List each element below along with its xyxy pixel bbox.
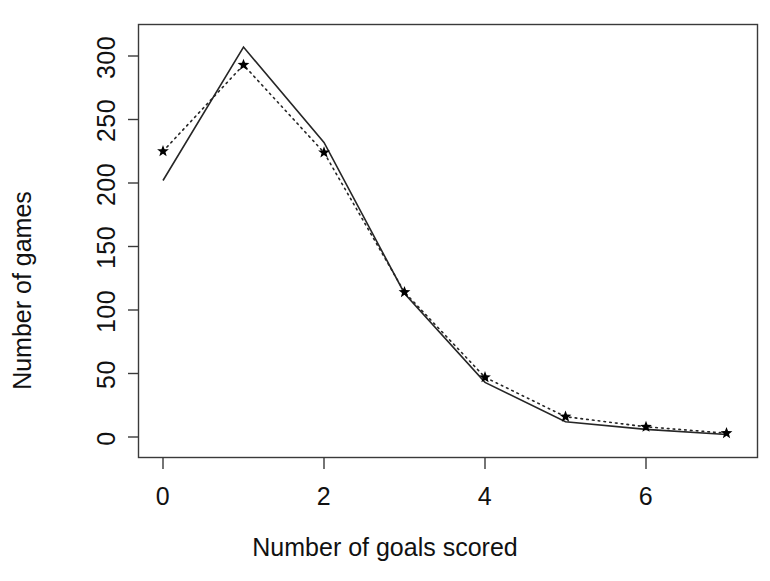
- y-tick-label-250: 250: [92, 91, 121, 151]
- y-axis-title: Number of games: [0, 0, 44, 581]
- x-axis-ticks: [163, 458, 646, 470]
- x-axis-title: Number of goals scored: [0, 533, 770, 562]
- y-tick-label-50: 50: [92, 345, 121, 405]
- y-axis-ticks: [128, 56, 139, 437]
- y-tick-label-0: 0: [92, 409, 121, 469]
- y-tick-label-200: 200: [92, 155, 121, 215]
- x-tick-label-6: 6: [616, 482, 676, 511]
- x-tick-label-0: 0: [133, 482, 193, 511]
- chart-figure: 0 50 100 150 200 250 300 0 2 4 6 Number …: [0, 0, 770, 581]
- plot-frame: [139, 25, 758, 458]
- x-tick-label-4: 4: [455, 482, 515, 511]
- y-tick-label-300: 300: [92, 28, 121, 88]
- y-tick-label-150: 150: [92, 218, 121, 278]
- y-tick-label-100: 100: [92, 282, 121, 342]
- x-tick-label-2: 2: [294, 482, 354, 511]
